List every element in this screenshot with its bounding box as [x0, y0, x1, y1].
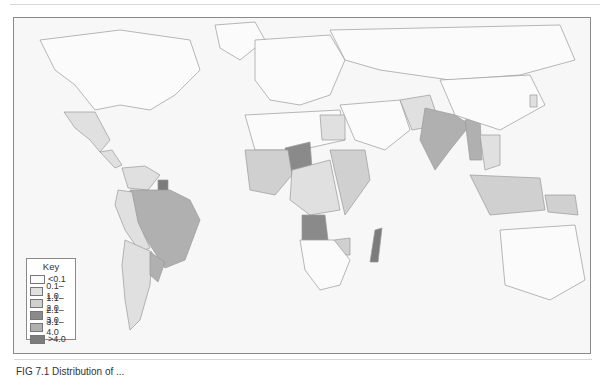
region-myanmar	[465, 118, 482, 160]
region-north-america	[40, 30, 200, 110]
region-madagascar	[370, 228, 382, 262]
region-russia-northern-asia	[330, 25, 575, 80]
region-indonesia	[470, 175, 545, 215]
region-colombia-venezuela	[122, 166, 160, 190]
region-angola	[302, 215, 328, 240]
figure-caption: FIG 7.1 Distribution of ...	[16, 366, 124, 377]
region-central-america	[100, 150, 122, 168]
region-central-africa	[290, 160, 340, 215]
region-indochina	[480, 135, 500, 170]
region-west-africa	[245, 150, 292, 195]
region-argentina-chile	[122, 240, 152, 330]
region-egypt	[320, 115, 345, 140]
legend-swatch	[30, 275, 45, 284]
legend-item: >4.0	[30, 333, 72, 345]
legend-swatch	[30, 311, 43, 320]
region-papua-new-guinea	[545, 195, 578, 215]
region-mexico	[64, 112, 110, 152]
bottom-rule	[14, 359, 592, 360]
map-legend: Key <0.1 0.1–1.0 1.1–2.0 2.1–3.0 3.1–4.0…	[26, 258, 76, 340]
region-middle-east	[340, 100, 410, 150]
legend-swatch	[30, 323, 43, 332]
legend-swatch	[30, 287, 43, 296]
legend-swatch	[30, 299, 43, 308]
region-australia	[500, 225, 585, 300]
legend-label: >4.0	[48, 334, 66, 344]
legend-swatch	[30, 335, 45, 344]
legend-title: Key	[30, 261, 72, 272]
legend-item: 3.1–4.0	[30, 321, 72, 333]
region-europe	[255, 35, 345, 105]
region-korea	[530, 95, 537, 107]
